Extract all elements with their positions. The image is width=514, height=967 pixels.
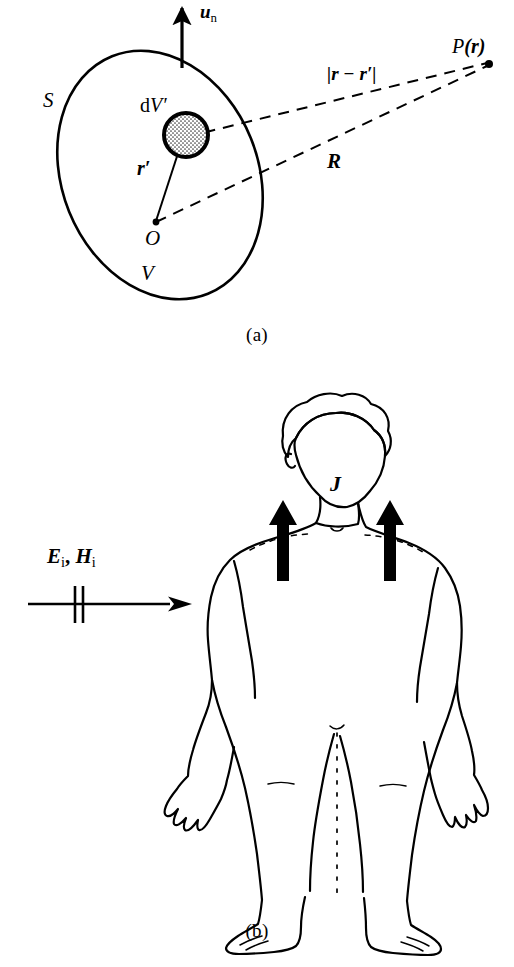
hip-right-to-leg [407, 683, 457, 901]
knee-right-detail [380, 785, 406, 787]
hair-outline [282, 394, 391, 457]
separation-distance-label: |r − r′| [327, 64, 377, 83]
volume-element-label: dV′ [140, 95, 167, 115]
volume-label: V [141, 263, 154, 284]
human-body-outline [165, 394, 488, 955]
inner-leg-right [340, 736, 363, 892]
inner-arm-right [417, 568, 438, 702]
volume-boundary-ellipse [21, 20, 299, 331]
panel-b-body-diagram: Ei, Hi J [0, 378, 514, 967]
origin-marker [153, 219, 160, 226]
incident-field-arrow-group [28, 586, 192, 623]
field-point-marker [485, 60, 493, 68]
groin-detail [330, 725, 344, 729]
panel-b-caption: (b) [0, 920, 514, 942]
normal-vector-label: un [200, 2, 217, 25]
observation-distance-label: R [327, 151, 341, 172]
panel-b-drawing [0, 378, 514, 967]
ear-outline [286, 454, 295, 468]
sternal-notch-detail [331, 528, 343, 531]
panel-a-drawing [0, 0, 514, 378]
current-density-label: J [330, 473, 341, 495]
figure-root: un S dV′ r′ O V P(r) |r − r′| R (a) [0, 0, 514, 967]
surface-label: S [43, 90, 54, 111]
current-density-arrows [269, 500, 404, 581]
panel-a-caption: (a) [0, 324, 514, 346]
incident-fields-label: Ei, Hi [47, 546, 96, 569]
torso-right-outline [358, 503, 488, 827]
origin-label: O [145, 228, 160, 249]
panel-a-volume-geometry: un S dV′ r′ O V P(r) |r − r′| R [0, 0, 514, 378]
volume-element-disc [164, 113, 208, 157]
inner-arm-left [234, 561, 255, 698]
incident-field-arrowhead [168, 597, 192, 612]
source-position-vector-label: r′ [137, 158, 150, 178]
field-point-label: P(r) [452, 36, 485, 56]
hip-left-to-leg [212, 680, 262, 900]
knee-left-detail [268, 783, 294, 785]
inner-leg-left [310, 734, 334, 891]
